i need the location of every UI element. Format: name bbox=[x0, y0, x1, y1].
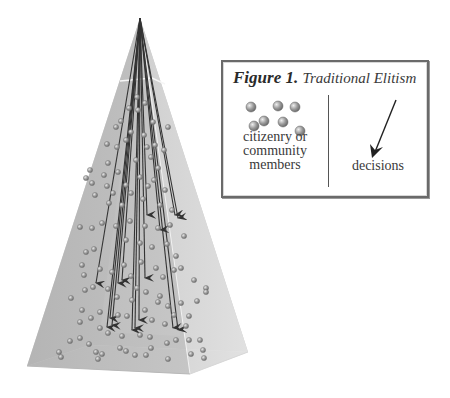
figure-legend-box: Figure 1. Traditional Elitism citizenry … bbox=[221, 60, 429, 198]
citizens-label-line-3: members bbox=[223, 158, 327, 172]
citizens-label-line-2: community bbox=[223, 144, 327, 158]
figure-name: Traditional Elitism bbox=[302, 70, 416, 86]
citizens-label: citizenry or community members bbox=[223, 130, 327, 172]
arrow-down-left-icon bbox=[329, 90, 427, 162]
decisions-label: decisions bbox=[329, 158, 427, 174]
figure-title: Figure 1. Traditional Elitism bbox=[233, 68, 416, 88]
citizens-label-line-1: citizenry or bbox=[223, 130, 327, 144]
figure-label: Figure 1. bbox=[233, 68, 298, 87]
